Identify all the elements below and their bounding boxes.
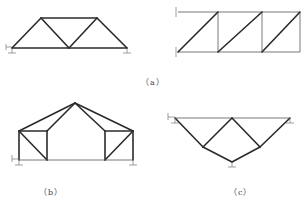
truss-a-left [6, 18, 131, 53]
panel-label-a: （a） [141, 76, 165, 87]
truss-c [168, 113, 294, 167]
panel-label-c: （c） [229, 186, 252, 197]
roller-support-icon [129, 160, 137, 165]
truss-a-right [176, 7, 300, 57]
roller-support-icon [228, 162, 236, 167]
truss-b [12, 103, 137, 165]
panel-label-b: （b） [39, 186, 63, 197]
truss-diagram [0, 0, 303, 204]
